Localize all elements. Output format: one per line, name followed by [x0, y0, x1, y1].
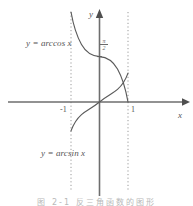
curve-label-arcsin: y = arcsin x [41, 149, 85, 158]
y-axis-label: y [89, 10, 93, 19]
figure-caption: 图 2-1 反三角函数的图形 [0, 196, 193, 206]
x-axis-label: x [178, 111, 182, 120]
x-axis-arrowhead [182, 98, 190, 105]
pi-half-denominator: 2 [99, 45, 109, 51]
x-tick-label-pos-one: 1 [131, 105, 135, 114]
figure-container: π 2 y = arccos x y = arcsin x x y -1 1 图… [0, 0, 193, 206]
y-axis-arrowhead [96, 9, 103, 18]
x-tick-label-neg-one: -1 [60, 105, 67, 114]
y-axis-pi-half-label: π 2 [99, 38, 109, 56]
curve-label-arccos: y = arccos x [26, 39, 72, 48]
arc-trig-function-plot [0, 0, 193, 206]
